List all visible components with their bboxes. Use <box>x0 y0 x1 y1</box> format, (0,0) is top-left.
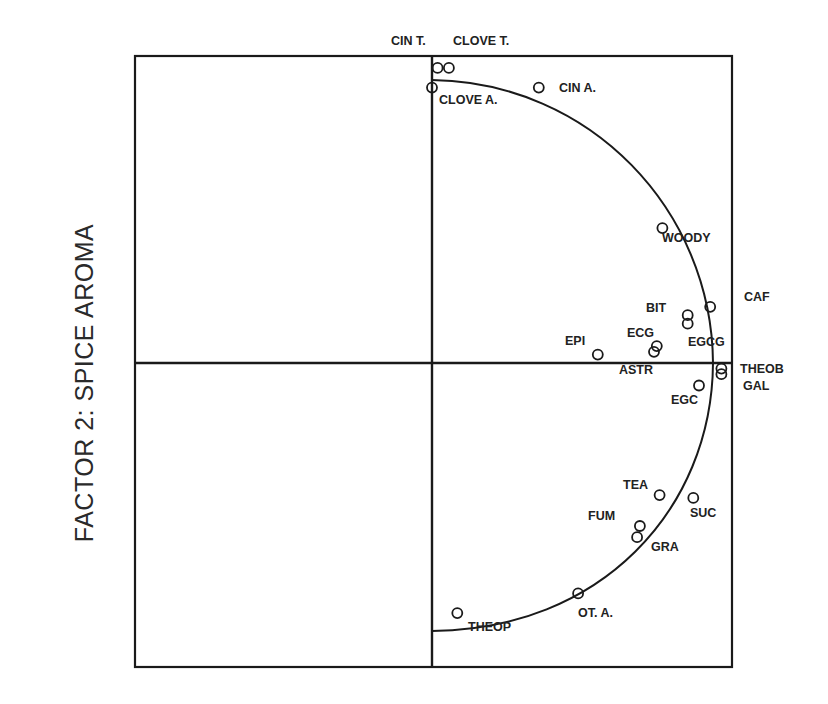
label-egcg: EGCG <box>688 335 725 349</box>
label-gra: GRA <box>651 540 679 554</box>
label-ecg: ECG <box>627 326 654 340</box>
data-point <box>694 381 704 391</box>
label-astr: ASTR <box>619 363 653 377</box>
label-bit: BIT <box>646 301 667 315</box>
label-clove-t: CLOVE T. <box>453 34 509 48</box>
data-point <box>655 490 665 500</box>
label-ot-a: OT. A. <box>578 606 613 620</box>
label-suc: SUC <box>690 506 716 520</box>
label-epi: EPI <box>565 334 585 348</box>
data-point <box>452 608 462 618</box>
label-fum: FUM <box>588 509 615 523</box>
data-point <box>593 350 603 360</box>
data-point <box>444 63 454 73</box>
data-point <box>534 83 544 93</box>
data-point <box>635 521 645 531</box>
data-point <box>433 63 443 73</box>
y-axis-label: FACTOR 2: SPICE AROMA <box>70 224 98 542</box>
factor-loading-plot: FACTOR 2: SPICE AROMA CIN T. CLOVE T. CL… <box>0 0 828 704</box>
point-labels: CIN T. CLOVE T. CLOVE A. CIN A. WOODY CA… <box>391 34 784 634</box>
label-egc: EGC <box>671 393 698 407</box>
label-caf: CAF <box>744 290 770 304</box>
label-clove-a: CLOVE A. <box>439 93 498 107</box>
data-point <box>632 532 642 542</box>
label-gal: GAL <box>743 379 770 393</box>
label-cin-a: CIN A. <box>559 81 596 95</box>
label-theop: THEOP <box>468 620 511 634</box>
plot-frame <box>135 56 732 667</box>
label-tea: TEA <box>623 478 648 492</box>
label-theob: THEOB <box>740 362 784 376</box>
label-woody: WOODY <box>662 231 711 245</box>
data-point <box>688 493 698 503</box>
label-cin-t: CIN T. <box>391 34 426 48</box>
